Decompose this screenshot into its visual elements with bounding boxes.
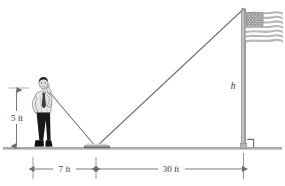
mirror-on-ground — [84, 144, 110, 149]
label-person-to-mirror: 7 ft — [58, 164, 71, 174]
figure-canvas: 5 ft 7 ft 30 ft h — [0, 0, 285, 186]
right-angle-marker — [247, 139, 253, 147]
sight-line-mirror-to-pole-top — [96, 10, 243, 147]
label-pole-height: h — [231, 81, 236, 91]
dimension-person-to-mirror: 7 ft — [35, 162, 95, 175]
dimension-person-height: 5 ft — [9, 88, 29, 148]
sight-line-person-to-mirror — [46, 88, 96, 147]
label-mirror-to-pole: 30 ft — [163, 164, 180, 174]
dimension-baseline: 7 ft 30 ft — [33, 153, 244, 179]
flagpole-similar-triangles-figure: 5 ft 7 ft 30 ft h — [0, 0, 285, 186]
man-standing-figure — [32, 77, 52, 147]
label-person-height: 5 ft — [11, 113, 24, 123]
dimension-mirror-to-pole: 30 ft — [98, 162, 243, 175]
sight-lines — [46, 10, 243, 147]
american-flag — [246, 11, 283, 43]
